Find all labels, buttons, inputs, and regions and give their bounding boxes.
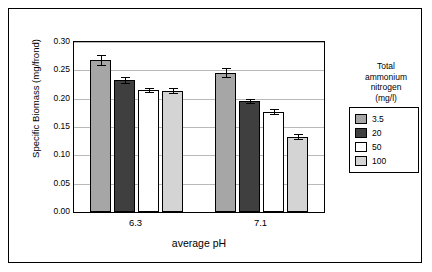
error-bar-cap [145, 92, 154, 93]
bar [263, 112, 284, 212]
legend-item-label: 3.5 [372, 114, 384, 124]
legend-title-line: (mg/l) [349, 93, 423, 104]
bar [287, 137, 308, 212]
chart-page: Specific Biomass (mg/frond) 0.000.050.10… [0, 0, 432, 272]
legend-item: 50 [355, 140, 413, 154]
gridline [74, 127, 324, 128]
legend-title-line: nitrogen [349, 82, 423, 93]
error-bar-cap [270, 114, 279, 115]
y-axis-tick-label: 0.30 [53, 37, 70, 46]
gridline [74, 70, 324, 71]
gridline [74, 99, 324, 100]
bar [162, 91, 183, 212]
legend-swatch [355, 114, 367, 124]
plot-area [73, 41, 325, 213]
x-axis-title: average pH [73, 237, 325, 249]
y-axis-tick-label: 0.25 [53, 65, 70, 74]
y-axis-tick-label: 0.20 [53, 94, 70, 103]
legend-item: 20 [355, 126, 413, 140]
legend-box: 3.52050100 [349, 107, 419, 173]
y-axis-tick-labels: 0.000.050.100.150.200.250.30 [37, 41, 70, 213]
legend-swatch [355, 156, 367, 166]
legend-swatch [355, 128, 367, 138]
error-bar-cap [222, 77, 231, 78]
legend-swatch [355, 142, 367, 152]
error-bar-cap [169, 88, 178, 89]
error-bar-cap [169, 93, 178, 94]
error-bar-cap [97, 55, 106, 56]
error-bar-cap [294, 134, 303, 135]
legend-item: 100 [355, 154, 413, 168]
bar [215, 73, 236, 212]
figure-frame: Specific Biomass (mg/frond) 0.000.050.10… [8, 8, 422, 263]
error-bar-cap [294, 139, 303, 140]
error-bar-cap [246, 99, 255, 100]
error-bar-cap [270, 109, 279, 110]
legend-title: Totalammoniumnitrogen(mg/l) [349, 61, 423, 103]
y-axis-tick-label: 0.15 [53, 122, 70, 131]
error-bar-cap [121, 77, 130, 78]
error-bar-cap [97, 65, 106, 66]
bar [239, 101, 260, 212]
error-bar-cap [222, 68, 231, 69]
bar [90, 60, 111, 212]
y-axis-tick-label: 0.00 [53, 207, 70, 216]
legend-title-line: Total [349, 61, 423, 72]
legend-item-label: 100 [372, 156, 386, 166]
legend-item-label: 20 [372, 128, 381, 138]
error-bar [101, 55, 102, 65]
legend-item: 3.5 [355, 112, 413, 126]
x-axis-tick-label: 7.1 [231, 217, 291, 228]
legend-item-label: 50 [372, 142, 381, 152]
x-axis-tick-label: 6.3 [106, 217, 166, 228]
bar [114, 80, 135, 212]
bar [138, 90, 159, 212]
legend-title-line: ammonium [349, 72, 423, 83]
error-bar-cap [246, 103, 255, 104]
error-bar-cap [145, 88, 154, 89]
error-bar-cap [121, 83, 130, 84]
legend: Totalammoniumnitrogen(mg/l) 3.52050100 [349, 61, 423, 173]
y-axis-tick-label: 0.10 [53, 150, 70, 159]
y-axis-tick-label: 0.05 [53, 179, 70, 188]
gridline [74, 42, 324, 43]
error-bar [226, 68, 227, 77]
